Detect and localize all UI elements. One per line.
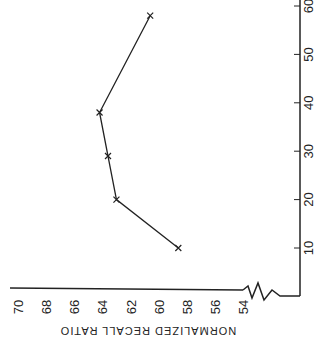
chart: 102030405060 545658606264666870 NORMALIZ… <box>0 0 332 348</box>
y-tick-label: 60 <box>152 300 167 314</box>
y-axis-line <box>10 288 243 290</box>
x-marker-icon <box>147 13 153 19</box>
axis-break <box>243 283 300 300</box>
x-tick-label: 30 <box>301 144 316 158</box>
x-tick-label: 10 <box>301 241 316 255</box>
x-tick-label: 50 <box>301 47 316 61</box>
x-tick-label: 20 <box>301 192 316 206</box>
x-marker-icon <box>175 245 181 251</box>
data-line <box>100 16 179 248</box>
data-markers <box>97 13 182 251</box>
y-tick-label: 64 <box>95 300 110 314</box>
y-tick-label: 58 <box>180 300 195 314</box>
y-tick-label: 70 <box>11 300 26 314</box>
y-tick-label: 68 <box>39 300 54 314</box>
x-tick-label: 40 <box>301 96 316 110</box>
y-axis-title: NORMALIZED RECALL RATIO <box>60 325 236 337</box>
y-ticks: 545658606264666870 <box>11 300 251 314</box>
x-ticks: 102030405060 <box>294 0 316 255</box>
x-tick-label: 60 <box>301 0 316 13</box>
y-tick-label: 56 <box>208 300 223 314</box>
y-tick-label: 66 <box>67 300 82 314</box>
y-tick-label: 54 <box>236 300 251 314</box>
y-tick-label: 62 <box>124 300 139 314</box>
